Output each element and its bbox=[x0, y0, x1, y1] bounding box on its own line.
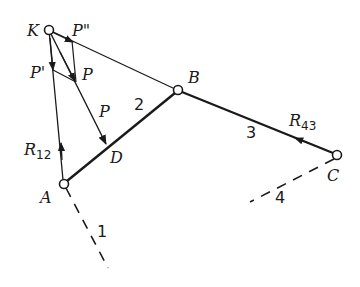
line-K-B bbox=[49, 30, 175, 89]
force-P-double-prime bbox=[52, 32, 73, 42]
label-C: C bbox=[327, 168, 339, 184]
label-link-4: 4 bbox=[275, 190, 285, 206]
force-P-resultant bbox=[60, 52, 75, 81]
joint-B bbox=[174, 86, 183, 95]
label-R12-sub: 12 bbox=[36, 148, 51, 162]
force-R43 bbox=[295, 138, 308, 143]
label-A: A bbox=[40, 190, 52, 206]
label-R12-main: R bbox=[24, 140, 36, 159]
label-link-2: 2 bbox=[134, 97, 144, 113]
joint-C bbox=[333, 151, 342, 160]
label-K: K bbox=[27, 23, 39, 39]
force-P-prime bbox=[50, 38, 53, 70]
label-R43-sub: 43 bbox=[301, 119, 316, 133]
label-P-top: P bbox=[82, 67, 93, 83]
label-link-3: 3 bbox=[246, 125, 256, 141]
label-R43-main: R bbox=[289, 111, 301, 130]
label-P-lower: P bbox=[99, 104, 110, 120]
label-B: B bbox=[188, 70, 200, 86]
label-P-prime: P' bbox=[30, 65, 45, 81]
diagram-svg bbox=[0, 0, 360, 287]
link-4-dashed bbox=[250, 159, 334, 202]
label-D: D bbox=[110, 150, 123, 166]
mechanism-diagram: K B A C D P" P' P P R12 R43 1 2 3 4 bbox=[0, 0, 360, 287]
label-link-1: 1 bbox=[97, 224, 107, 240]
link-2-A-B bbox=[67, 93, 175, 181]
label-R12: R12 bbox=[24, 142, 51, 161]
joint-A bbox=[60, 180, 69, 189]
label-P-double-prime: P" bbox=[72, 23, 90, 39]
label-R43: R43 bbox=[289, 113, 316, 132]
joint-K bbox=[45, 26, 54, 35]
